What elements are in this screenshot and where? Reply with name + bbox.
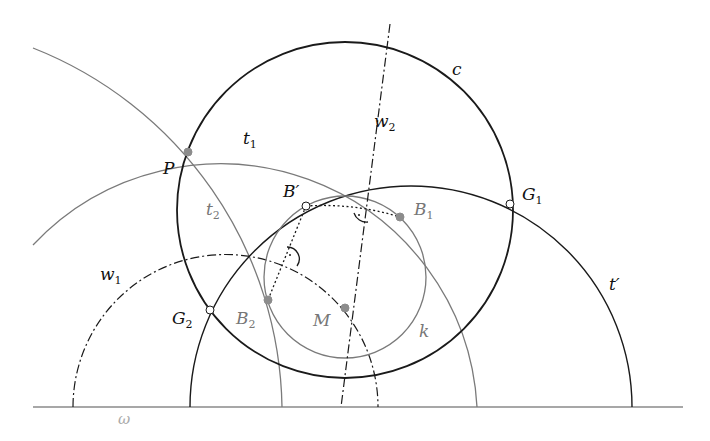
label-t1: t1: [243, 128, 257, 151]
point-B-prime: [302, 202, 310, 210]
label-B-prime: B′: [282, 181, 299, 201]
right-angle-mark-w1: [287, 247, 299, 266]
point-G1: [506, 200, 514, 208]
right-angle-dot-w1: [289, 254, 291, 256]
label-t-prime: t′: [609, 274, 620, 294]
label-G2: G2: [172, 308, 193, 331]
label-k: k: [419, 321, 429, 341]
right-angle-dot-w2: [358, 214, 360, 216]
label-G1: G1: [522, 184, 543, 207]
point-B2: [264, 296, 272, 304]
circle-c: [177, 42, 513, 378]
label-w2: w2: [374, 111, 396, 134]
point-B1: [396, 213, 404, 221]
label-B2: B2: [235, 308, 256, 331]
label-omega: ω: [118, 410, 130, 428]
geometry-diagram: c w2 t1 P B′ t2 B1 G1 w1 t′ G2 B2 M k ω: [0, 0, 710, 441]
label-P: P: [162, 158, 175, 178]
label-M: M: [312, 310, 331, 330]
label-c: c: [452, 59, 462, 79]
point-P: [184, 148, 192, 156]
line-w2: [341, 24, 390, 407]
label-B1: B1: [413, 199, 434, 222]
point-G2: [206, 306, 214, 314]
circle-t1-arc: [33, 164, 477, 407]
label-t2: t2: [206, 199, 220, 222]
point-M: [341, 304, 349, 312]
label-w1: w1: [100, 264, 122, 287]
circle-t-prime: [190, 186, 632, 407]
circle-t2-arc: [33, 48, 282, 407]
